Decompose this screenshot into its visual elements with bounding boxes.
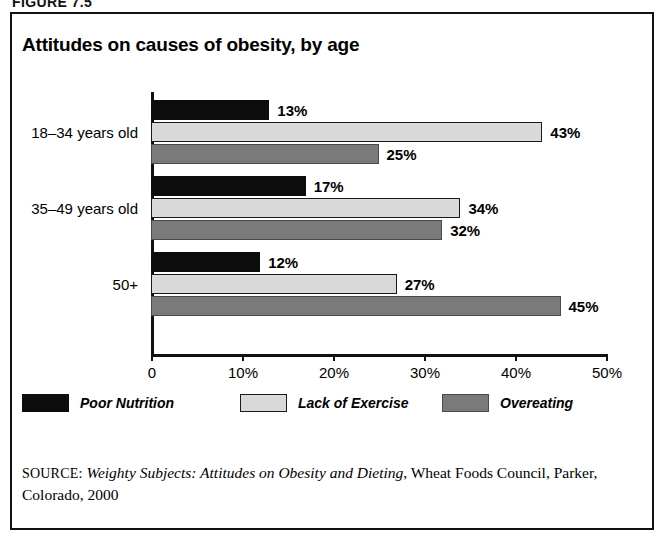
source-note: SOURCE: Weighty Subjects: Attitudes on O… bbox=[22, 462, 622, 505]
x-axis-tick-label: 10% bbox=[228, 364, 258, 381]
bar-value-label: 13% bbox=[277, 102, 307, 119]
bar-value-label: 45% bbox=[569, 298, 599, 315]
legend-label: Lack of Exercise bbox=[298, 395, 409, 411]
bar-row: 34% bbox=[151, 198, 606, 218]
legend-item[interactable]: Overeating bbox=[442, 392, 573, 414]
bar-overeating[interactable] bbox=[151, 220, 442, 240]
legend-swatch-icon bbox=[22, 394, 69, 412]
figure-caption: FIGURE 7.5 bbox=[12, 0, 92, 10]
bar-row: 43% bbox=[151, 122, 606, 142]
x-axis-tick bbox=[515, 354, 517, 361]
legend-label: Poor Nutrition bbox=[80, 395, 174, 411]
bar-value-label: 17% bbox=[314, 178, 344, 195]
bar-overeating[interactable] bbox=[151, 296, 561, 316]
bar-row: 27% bbox=[151, 274, 606, 294]
bar-poor-nutrition[interactable] bbox=[151, 176, 306, 196]
chart-title: Attitudes on causes of obesity, by age bbox=[22, 34, 359, 56]
x-axis-tick bbox=[242, 354, 244, 361]
x-axis-line bbox=[151, 354, 606, 357]
bar-value-label: 32% bbox=[450, 222, 480, 239]
bar-row: 32% bbox=[151, 220, 606, 240]
source-title: Weighty Subjects: Attitudes on Obesity a… bbox=[86, 464, 403, 481]
bar-lack-of-exercise[interactable] bbox=[151, 122, 542, 142]
bar-lack-of-exercise[interactable] bbox=[151, 274, 397, 294]
bar-row: 17% bbox=[151, 176, 606, 196]
legend-label: Overeating bbox=[500, 395, 573, 411]
chart-legend: Poor NutritionLack of ExerciseOvereating bbox=[22, 392, 622, 418]
bar-poor-nutrition[interactable] bbox=[151, 252, 260, 272]
category-label: 18–34 years old bbox=[31, 124, 138, 141]
category-axis-labels: 18–34 years old35–49 years old50+ bbox=[0, 92, 138, 360]
bar-value-label: 43% bbox=[550, 124, 580, 141]
x-axis-tick bbox=[151, 354, 153, 361]
category-label: 35–49 years old bbox=[31, 200, 138, 217]
legend-swatch-icon bbox=[240, 394, 287, 412]
x-axis-tick bbox=[606, 354, 608, 361]
plot-area: 010%20%30%40%50%13%43%25%17%34%32%12%27%… bbox=[141, 92, 613, 360]
x-axis-tick-label: 30% bbox=[410, 364, 440, 381]
x-axis-tick-label: 0 bbox=[148, 364, 156, 381]
bar-lack-of-exercise[interactable] bbox=[151, 198, 460, 218]
category-label: 50+ bbox=[113, 276, 138, 293]
bar-overeating[interactable] bbox=[151, 144, 379, 164]
x-axis-tick-label: 50% bbox=[592, 364, 622, 381]
bar-group: 17%34%32% bbox=[151, 176, 606, 242]
legend-item[interactable]: Lack of Exercise bbox=[240, 392, 409, 414]
bar-value-label: 27% bbox=[405, 276, 435, 293]
bar-value-label: 34% bbox=[468, 200, 498, 217]
x-axis-tick-label: 20% bbox=[319, 364, 349, 381]
bar-poor-nutrition[interactable] bbox=[151, 100, 269, 120]
source-label: SOURCE: bbox=[22, 466, 83, 481]
bar-value-label: 25% bbox=[387, 146, 417, 163]
bar-row: 12% bbox=[151, 252, 606, 272]
bar-group: 13%43%25% bbox=[151, 100, 606, 166]
bar-row: 45% bbox=[151, 296, 606, 316]
x-axis-tick-label: 40% bbox=[501, 364, 531, 381]
x-axis-tick bbox=[333, 354, 335, 361]
x-axis-tick bbox=[424, 354, 426, 361]
bar-value-label: 12% bbox=[268, 254, 298, 271]
figure-page: FIGURE 7.5 Attitudes on causes of obesit… bbox=[0, 0, 664, 552]
legend-item[interactable]: Poor Nutrition bbox=[22, 392, 174, 414]
bar-group: 12%27%45% bbox=[151, 252, 606, 318]
bar-row: 25% bbox=[151, 144, 606, 164]
legend-swatch-icon bbox=[442, 394, 489, 412]
bar-row: 13% bbox=[151, 100, 606, 120]
